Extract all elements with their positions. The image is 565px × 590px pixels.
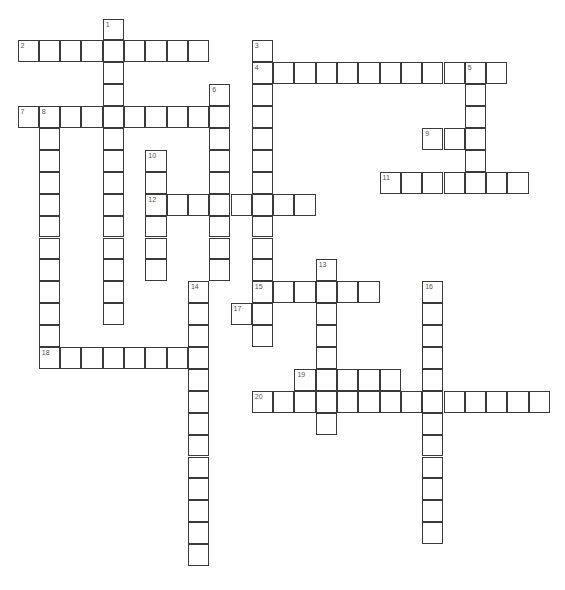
crossword-cell[interactable]	[465, 391, 486, 413]
crossword-cell[interactable]: 16	[422, 281, 443, 303]
crossword-cell[interactable]	[145, 259, 166, 281]
crossword-cell[interactable]	[209, 238, 230, 260]
crossword-cell[interactable]	[422, 62, 443, 84]
crossword-cell[interactable]	[103, 84, 124, 106]
crossword-cell[interactable]	[252, 238, 273, 260]
crossword-cell[interactable]	[39, 172, 60, 194]
crossword-cell[interactable]: 4	[252, 62, 273, 84]
crossword-cell[interactable]	[145, 216, 166, 238]
crossword-cell[interactable]	[39, 303, 60, 325]
crossword-cell[interactable]	[103, 259, 124, 281]
crossword-cell[interactable]	[103, 128, 124, 150]
crossword-cell[interactable]	[422, 369, 443, 391]
crossword-cell[interactable]	[401, 391, 422, 413]
crossword-cell[interactable]	[145, 106, 166, 128]
crossword-cell[interactable]	[465, 106, 486, 128]
crossword-cell[interactable]: 12	[145, 194, 166, 216]
crossword-cell[interactable]	[316, 325, 337, 347]
crossword-cell[interactable]	[316, 369, 337, 391]
crossword-cell[interactable]	[209, 172, 230, 194]
crossword-cell[interactable]	[103, 216, 124, 238]
crossword-cell[interactable]	[209, 128, 230, 150]
crossword-cell[interactable]: 3	[252, 40, 273, 62]
crossword-cell[interactable]	[145, 238, 166, 260]
crossword-cell[interactable]	[103, 40, 124, 62]
crossword-cell[interactable]: 14	[188, 281, 209, 303]
crossword-cell[interactable]	[39, 238, 60, 260]
crossword-cell[interactable]: 11	[380, 172, 401, 194]
crossword-cell[interactable]	[358, 62, 379, 84]
crossword-cell[interactable]	[188, 369, 209, 391]
crossword-cell[interactable]	[188, 413, 209, 435]
crossword-cell[interactable]	[252, 150, 273, 172]
crossword-cell[interactable]	[294, 62, 315, 84]
crossword-cell[interactable]	[145, 347, 166, 369]
crossword-cell[interactable]: 10	[145, 150, 166, 172]
crossword-cell[interactable]	[422, 303, 443, 325]
crossword-cell[interactable]	[81, 106, 102, 128]
crossword-cell[interactable]	[486, 391, 507, 413]
crossword-cell[interactable]	[167, 347, 188, 369]
crossword-cell[interactable]	[252, 325, 273, 347]
crossword-cell[interactable]	[167, 40, 188, 62]
crossword-cell[interactable]	[103, 303, 124, 325]
crossword-cell[interactable]	[422, 172, 443, 194]
crossword-cell[interactable]	[422, 435, 443, 457]
crossword-cell[interactable]	[273, 391, 294, 413]
crossword-cell[interactable]	[465, 150, 486, 172]
crossword-cell[interactable]: 19	[294, 369, 315, 391]
crossword-cell[interactable]	[252, 259, 273, 281]
crossword-cell[interactable]	[209, 150, 230, 172]
crossword-cell[interactable]	[422, 391, 443, 413]
crossword-cell[interactable]	[337, 391, 358, 413]
crossword-cell[interactable]	[316, 413, 337, 435]
crossword-cell[interactable]	[316, 391, 337, 413]
crossword-cell[interactable]	[444, 62, 465, 84]
crossword-cell[interactable]	[188, 347, 209, 369]
crossword-cell[interactable]	[39, 128, 60, 150]
crossword-cell[interactable]	[422, 347, 443, 369]
crossword-cell[interactable]	[422, 413, 443, 435]
crossword-cell[interactable]	[188, 106, 209, 128]
crossword-cell[interactable]: 18	[39, 347, 60, 369]
crossword-cell[interactable]	[145, 40, 166, 62]
crossword-cell[interactable]	[188, 478, 209, 500]
crossword-cell[interactable]	[39, 325, 60, 347]
crossword-cell[interactable]	[316, 303, 337, 325]
crossword-cell[interactable]	[209, 216, 230, 238]
crossword-cell[interactable]	[124, 347, 145, 369]
crossword-cell[interactable]	[231, 194, 252, 216]
crossword-cell[interactable]	[358, 369, 379, 391]
crossword-cell[interactable]	[39, 150, 60, 172]
crossword-cell[interactable]	[294, 391, 315, 413]
crossword-cell[interactable]	[422, 522, 443, 544]
crossword-cell[interactable]	[124, 40, 145, 62]
crossword-cell[interactable]	[465, 128, 486, 150]
crossword-cell[interactable]	[294, 281, 315, 303]
crossword-cell[interactable]	[209, 259, 230, 281]
crossword-cell[interactable]: 1	[103, 19, 124, 41]
crossword-cell[interactable]: 7	[18, 106, 39, 128]
crossword-cell[interactable]	[124, 106, 145, 128]
crossword-cell[interactable]	[380, 62, 401, 84]
crossword-cell[interactable]	[188, 435, 209, 457]
crossword-cell[interactable]	[358, 391, 379, 413]
crossword-cell[interactable]	[145, 172, 166, 194]
crossword-cell[interactable]	[294, 194, 315, 216]
crossword-cell[interactable]	[252, 106, 273, 128]
crossword-cell[interactable]	[103, 238, 124, 260]
crossword-cell[interactable]	[103, 150, 124, 172]
crossword-cell[interactable]	[529, 391, 550, 413]
crossword-cell[interactable]	[337, 281, 358, 303]
crossword-cell[interactable]	[252, 84, 273, 106]
crossword-cell[interactable]	[507, 172, 528, 194]
crossword-cell[interactable]	[39, 194, 60, 216]
crossword-cell[interactable]	[103, 194, 124, 216]
crossword-cell[interactable]	[316, 281, 337, 303]
crossword-cell[interactable]	[252, 216, 273, 238]
crossword-cell[interactable]	[209, 194, 230, 216]
crossword-cell[interactable]	[465, 172, 486, 194]
crossword-cell[interactable]	[103, 281, 124, 303]
crossword-cell[interactable]	[103, 172, 124, 194]
crossword-cell[interactable]	[188, 40, 209, 62]
